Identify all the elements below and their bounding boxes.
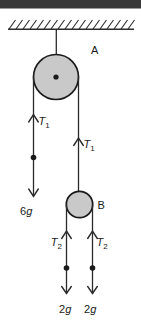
top-mount-bar — [0, 0, 141, 9]
pulley-system-diagram: A T1 6g T1 B T2 2g T2 2g — [0, 0, 141, 327]
pulley-b-label: B — [98, 199, 105, 211]
tension-t2-right-label: T2 — [97, 236, 109, 251]
mass-2g-right-dot — [90, 265, 96, 271]
tension-t1-right-label: T1 — [84, 138, 96, 153]
tension-t1-left-label: T1 — [39, 115, 51, 130]
ceiling-hatch — [9, 20, 135, 29]
mass-6g-dot — [31, 155, 37, 161]
pulley-a-axle-dot — [53, 74, 58, 79]
mass-2g-left-dot — [64, 265, 70, 271]
mass-6g-label: 6g — [20, 205, 33, 217]
tension-t2-left-label: T2 — [51, 236, 63, 251]
pulley-diagram-canvas: A T1 6g T1 B T2 2g T2 2g — [0, 0, 141, 327]
pulley-a-label: A — [91, 44, 99, 56]
mass-2g-left-label: 2g — [59, 303, 72, 315]
pulley-b — [66, 191, 92, 217]
mass-2g-right-label: 2g — [84, 303, 97, 315]
